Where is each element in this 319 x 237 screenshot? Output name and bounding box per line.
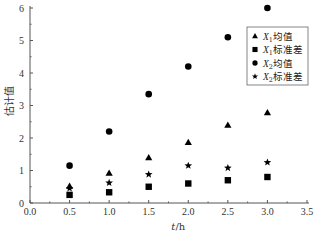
x-axis-label: t/h	[171, 221, 185, 232]
triangle-point	[264, 109, 271, 115]
y-tick-label: 0	[19, 198, 24, 209]
legend-suffix: 标准差	[273, 71, 303, 82]
data-points	[66, 5, 271, 198]
y-tick-label: 5	[19, 35, 24, 46]
scatter-chart: 0.00.51.01.52.02.53.03.5 0123456 t/h 估计值…	[0, 0, 319, 237]
triangle-point	[185, 139, 192, 145]
series-circle	[66, 5, 270, 169]
square-point	[66, 192, 72, 198]
y-axis-label: 估计值	[3, 86, 15, 116]
x-tick-label: 0.5	[63, 206, 76, 217]
triangle-point	[106, 170, 113, 176]
circle-point	[145, 91, 152, 98]
legend-square-icon	[252, 47, 257, 52]
x-tick-label: 2.5	[222, 206, 235, 217]
legend-suffix: 均值	[273, 58, 293, 69]
circle-point	[106, 128, 113, 135]
square-point	[146, 184, 152, 190]
star-point	[184, 162, 192, 169]
square-point	[106, 189, 112, 195]
star-point	[264, 158, 272, 165]
triangle-point	[145, 154, 152, 160]
circle-point	[185, 63, 192, 70]
y-tick-label: 2	[19, 133, 24, 144]
star-point	[66, 184, 74, 191]
square-point	[185, 180, 191, 186]
y-ticks: 0123456	[19, 3, 33, 209]
y-tick-label: 3	[19, 100, 24, 111]
triangle-point	[224, 121, 231, 127]
series-star	[66, 158, 271, 191]
x-tick-label: 0.0	[24, 206, 37, 217]
legend-suffix: 标准差	[273, 44, 303, 55]
legend-circle-icon	[252, 60, 257, 65]
circle-point	[225, 34, 232, 41]
x-axis-label-unit: /h	[175, 221, 185, 232]
circle-point	[264, 5, 271, 12]
star-point	[105, 179, 113, 186]
legend: X1均值X1标准差X2均值X2标准差	[247, 27, 308, 85]
square-point	[225, 177, 231, 183]
legend-suffix: 均值	[273, 31, 293, 42]
x-tick-label: 3.0	[261, 206, 274, 217]
star-point	[145, 170, 153, 177]
x-tick-label: 1.5	[142, 206, 155, 217]
series-triangle	[66, 109, 271, 189]
x-tick-label: 1.0	[103, 206, 116, 217]
y-tick-label: 1	[19, 165, 24, 176]
series-square	[66, 174, 270, 198]
x-tick-label: 2.0	[182, 206, 195, 217]
y-tick-label: 4	[19, 68, 24, 79]
square-point	[264, 174, 270, 180]
x-tick-label: 3.5	[301, 206, 314, 217]
star-point	[224, 164, 232, 171]
circle-point	[66, 162, 73, 169]
y-tick-label: 6	[19, 3, 24, 14]
